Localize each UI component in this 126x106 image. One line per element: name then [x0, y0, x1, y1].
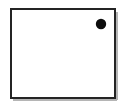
diagram-canvas [0, 0, 126, 106]
black-dot [96, 19, 106, 29]
shape-diagram [0, 0, 126, 106]
